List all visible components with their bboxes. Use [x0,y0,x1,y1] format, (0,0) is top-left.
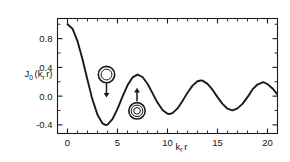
y-tick-label-0: 0.8 [39,33,52,44]
x-tick-label-4: 20 [262,137,273,148]
x-axis-title: krr [176,141,188,153]
x-tick-label-0: 0 [65,137,70,148]
x-tick-label-3: 15 [212,137,223,148]
x-tick-label-1: 5 [115,137,120,148]
y-axis-title-close: r) [46,68,52,79]
bessel-function-figure: 051015200.80.40.0-0.4krrJ0(krr) [0,0,290,162]
y-axis-title-subr: r [42,74,45,81]
x-tick-label-2: 10 [162,137,173,148]
y-axis-title-sub0: 0 [29,74,33,81]
x-axis-title-sub: r [180,146,183,153]
y-axis-title: J0(krr) [24,68,52,80]
y-tick-label-3: -0.4 [36,119,52,130]
plot-canvas: 051015200.80.40.0-0.4krrJ0(krr) [0,0,290,162]
plot-background [58,19,278,134]
x-axis-title-r: r [184,141,187,152]
y-tick-label-2: 0.0 [39,91,52,102]
